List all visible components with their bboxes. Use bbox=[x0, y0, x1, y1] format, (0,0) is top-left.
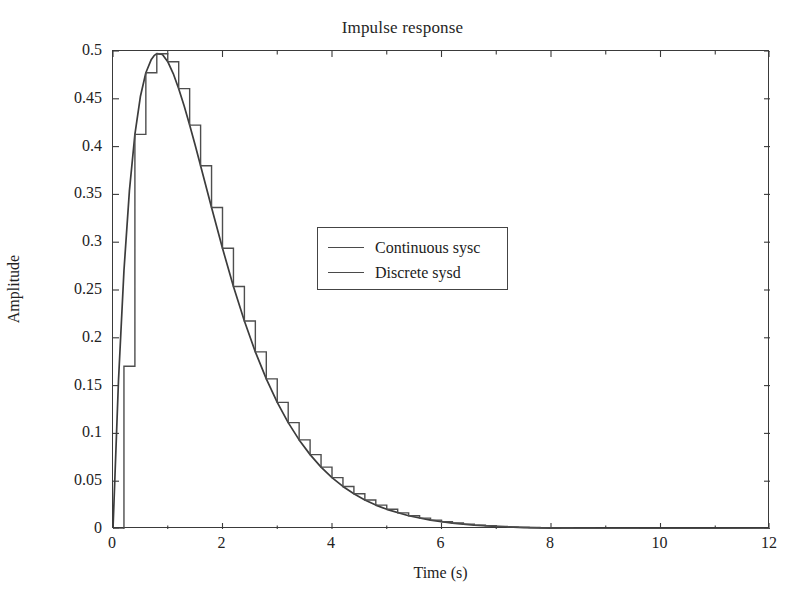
x-tick-label: 12 bbox=[761, 534, 777, 552]
legend-swatch-continuous-icon bbox=[328, 247, 364, 248]
plot-svg bbox=[113, 51, 770, 529]
x-tick-label: 0 bbox=[108, 534, 116, 552]
legend-swatch-discrete-icon bbox=[328, 272, 364, 273]
x-tick-label: 8 bbox=[546, 534, 554, 552]
legend-box[interactable]: Continuous sysc Discrete sysd bbox=[317, 227, 508, 290]
axis-ticks bbox=[113, 51, 770, 529]
x-tick-label: 6 bbox=[437, 534, 445, 552]
x-axis-title: Time (s) bbox=[112, 564, 769, 582]
y-axis-title: Amplitude bbox=[5, 255, 23, 323]
legend-label-discrete: Discrete sysd bbox=[375, 265, 461, 281]
figure-canvas: Impulse response 00.050.10.150.20.250.30… bbox=[0, 0, 805, 608]
x-tick-label: 10 bbox=[652, 534, 668, 552]
legend-item-continuous[interactable]: Continuous sysc bbox=[318, 235, 507, 260]
series-line-continuous bbox=[113, 54, 770, 529]
legend-item-discrete[interactable]: Discrete sysd bbox=[318, 260, 507, 285]
series-line-discrete bbox=[113, 54, 770, 529]
x-tick-label: 4 bbox=[327, 534, 335, 552]
x-tick-label: 2 bbox=[218, 534, 226, 552]
legend-label-continuous: Continuous sysc bbox=[375, 240, 480, 256]
